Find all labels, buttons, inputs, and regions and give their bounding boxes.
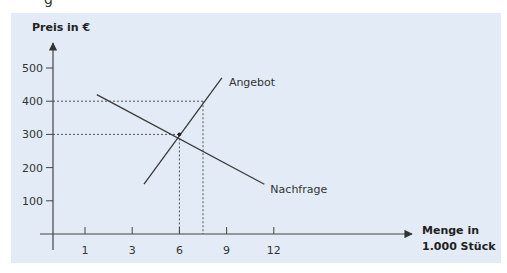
x-tick-label: 1	[82, 244, 89, 257]
y-tick-label: 200	[22, 162, 43, 175]
x-tick-label: 3	[129, 244, 136, 257]
supply-demand-chart: Preis in € Menge in 1.000 Stück 10020030…	[0, 0, 507, 273]
x-tick-label: 12	[267, 244, 281, 257]
annotation-angebot: Angebot	[229, 76, 276, 89]
x-tick-label: 6	[176, 244, 183, 257]
equilibrium-point	[178, 133, 182, 137]
y-tick-label: 500	[22, 62, 43, 75]
x-tick-label: 9	[223, 244, 230, 257]
y-tick-label: 400	[22, 95, 43, 108]
series-line-nachfrage	[97, 95, 265, 185]
y-tick-label: 100	[22, 195, 43, 208]
y-axis-label: Preis in €	[32, 21, 90, 34]
annotation-nachfrage: Nachfrage	[270, 183, 327, 196]
series-line-angebot	[144, 78, 222, 184]
y-tick-label: 300	[22, 128, 43, 141]
x-axis-label-line2: 1.000 Stück	[422, 240, 496, 253]
x-axis-label-line1: Menge in	[422, 224, 479, 237]
